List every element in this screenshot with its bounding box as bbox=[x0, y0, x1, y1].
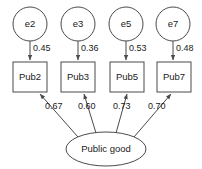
loading-arrow-pub5 bbox=[116, 94, 127, 133]
error-label-e7: e7 bbox=[168, 18, 179, 29]
loading-path-label-pub3: 0.60 bbox=[78, 101, 96, 111]
latent-label-public-good: Public good bbox=[81, 143, 131, 154]
error-label-e5: e5 bbox=[121, 18, 132, 29]
indicator-label-pub5: Pub5 bbox=[116, 71, 138, 82]
indicator-label-pub3: Pub3 bbox=[67, 71, 89, 82]
error-label-e3: e3 bbox=[73, 18, 84, 29]
loading-path-label-pub5: 0.73 bbox=[113, 101, 131, 111]
error-path-label-e2: 0.45 bbox=[33, 43, 51, 53]
loading-path-label-pub2: 0.67 bbox=[45, 101, 63, 111]
indicator-label-pub7: Pub7 bbox=[163, 71, 185, 82]
error-path-label-e7: 0.48 bbox=[176, 43, 194, 53]
diagram-canvas: e2 e3 e5 e7 0.45 0.36 0.53 0.48 Pub2 Pub… bbox=[0, 0, 202, 169]
loading-path-label-pub7: 0.70 bbox=[148, 101, 166, 111]
error-label-e2: e2 bbox=[25, 18, 36, 29]
indicator-label-pub2: Pub2 bbox=[19, 71, 41, 82]
error-path-label-e3: 0.36 bbox=[81, 43, 99, 53]
error-path-label-e5: 0.53 bbox=[129, 43, 147, 53]
loading-arrow-pub3 bbox=[84, 94, 96, 133]
sem-path-diagram: e2 e3 e5 e7 0.45 0.36 0.53 0.48 Pub2 Pub… bbox=[0, 0, 202, 169]
